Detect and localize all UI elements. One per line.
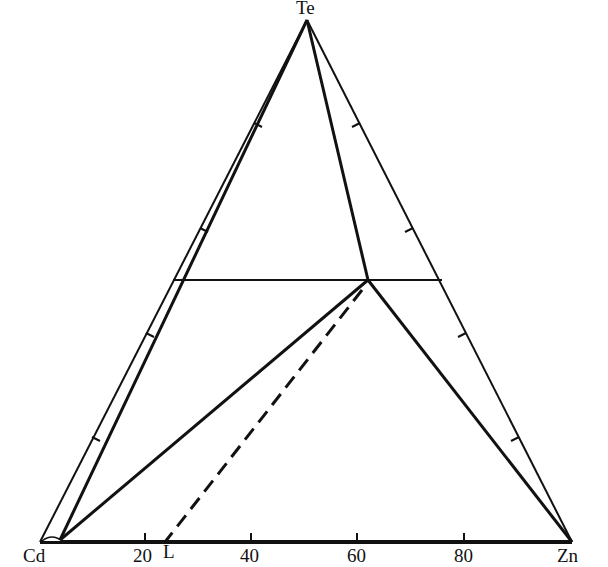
line-center-to-left-node xyxy=(60,280,368,540)
dashed-liquidus-line xyxy=(165,290,362,542)
vertex-label-zn: Zn xyxy=(557,545,579,566)
right-edge-ticks xyxy=(352,123,519,441)
line-te-to-center-node xyxy=(307,20,368,280)
line-center-to-zn xyxy=(368,280,572,542)
ternary-diagram: Te Cd Zn 20 L 40 60 80 xyxy=(0,0,608,567)
vertex-label-te: Te xyxy=(296,0,315,18)
axis-tick-label-80: 80 xyxy=(454,545,473,566)
axis-tick-label-20: 20 xyxy=(133,545,152,566)
cd-corner-lens xyxy=(42,537,62,541)
axis-tick-label-40: 40 xyxy=(240,545,259,566)
marker-label-l: L xyxy=(163,541,175,562)
vertex-label-cd: Cd xyxy=(23,545,46,566)
axis-tick-label-60: 60 xyxy=(347,545,366,566)
